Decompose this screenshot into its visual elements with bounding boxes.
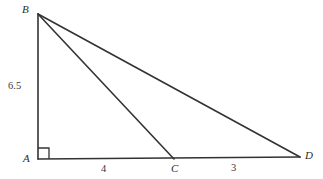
segment-BD: [38, 14, 300, 157]
vertex-label-B: B: [22, 4, 29, 15]
vertex-label-D: D: [305, 150, 313, 161]
measure-label-CD: 3: [231, 163, 236, 174]
segment-AD: [38, 157, 300, 159]
segment-BC: [38, 14, 174, 159]
geometry-canvas: [0, 0, 323, 179]
right-angle-marker-A: [38, 148, 49, 159]
geometry-figure: B A C D 6.5 4 3: [0, 0, 323, 179]
measure-label-AB: 6.5: [8, 81, 21, 92]
vertex-label-A: A: [23, 153, 30, 164]
vertex-label-C: C: [171, 163, 178, 174]
measure-label-AC: 4: [101, 164, 106, 175]
